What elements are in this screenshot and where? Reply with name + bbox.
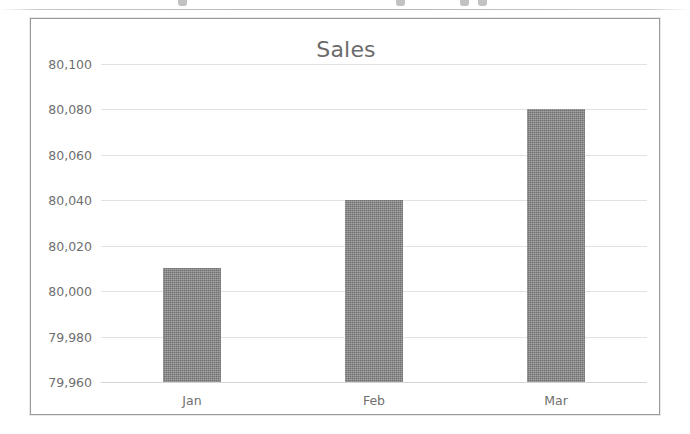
gridline: 80,100 [101,64,647,65]
bar-mar[interactable]: Mar [527,109,585,382]
plot-area: 80,10080,08080,06080,04080,02080,00079,9… [101,64,647,382]
y-axis-tick-label: 79,960 [48,375,92,390]
bar-jan[interactable]: Jan [163,268,221,382]
scan-smudge-mark [478,0,487,6]
scan-smudge-mark [396,0,405,6]
y-axis-tick-label: 79,980 [48,329,92,344]
y-axis-tick-label: 80,100 [48,57,92,72]
bar-feb[interactable]: Feb [345,200,403,382]
y-axis-tick-label: 80,000 [48,284,92,299]
x-axis-tick-label: Mar [496,393,616,408]
scan-line [0,9,690,10]
scan-smudge-mark [178,0,187,6]
scan-smudge-mark [460,0,469,6]
y-axis-tick-label: 80,040 [48,193,92,208]
x-axis-tick-label: Feb [314,393,434,408]
scan-edge-artifact [0,0,690,14]
x-axis-tick-label: Jan [132,393,252,408]
chart-title: Sales [31,37,661,62]
gridline: 79,960 [101,382,647,383]
chart-container[interactable]: Sales 80,10080,08080,06080,04080,02080,0… [30,18,660,415]
y-axis-tick-label: 80,020 [48,238,92,253]
y-axis-tick-label: 80,060 [48,147,92,162]
y-axis-tick-label: 80,080 [48,102,92,117]
